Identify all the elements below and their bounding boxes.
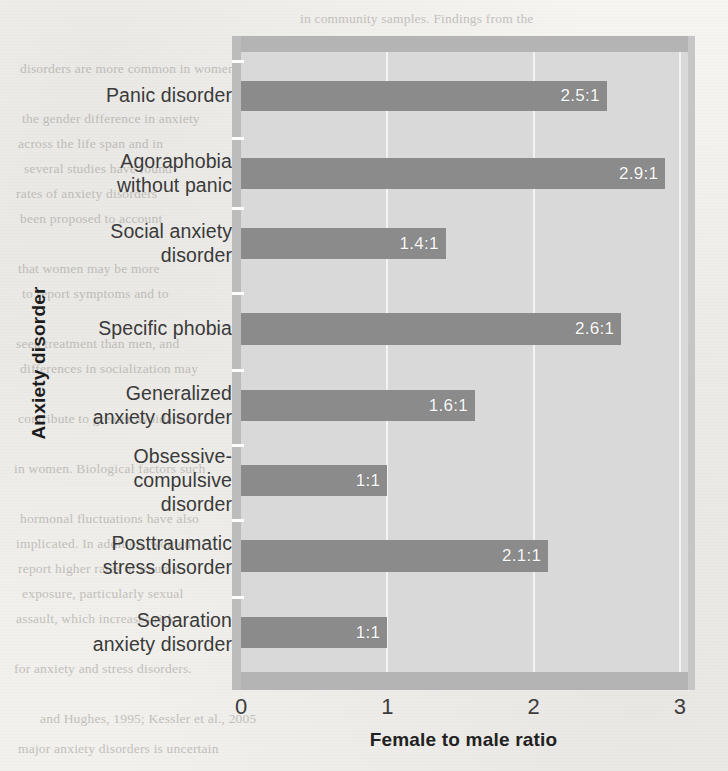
gridline-1 bbox=[386, 52, 388, 672]
x-tick-label: 3 bbox=[674, 694, 686, 720]
y-tick bbox=[232, 444, 244, 447]
category-label-line: Generalized bbox=[93, 381, 232, 405]
category-label: Specific phobia bbox=[98, 316, 232, 340]
category-label-line: anxiety disorder bbox=[93, 632, 232, 656]
category-label-line: Obsessive- bbox=[133, 444, 232, 468]
plot-frame: 2.5:12.9:11.4:12.6:11.6:11:12.1:11:1 bbox=[232, 36, 695, 690]
bar-value-label: 2.6:1 bbox=[575, 319, 614, 339]
category-label-line: Social anxiety bbox=[110, 219, 232, 243]
bar-value-label: 1:1 bbox=[356, 471, 381, 491]
bar-slot: 2.5:1 bbox=[241, 81, 688, 111]
y-tick bbox=[232, 292, 244, 295]
bar[interactable]: 1.6:1 bbox=[241, 390, 475, 421]
y-tick bbox=[232, 596, 244, 599]
category-label: Agoraphobiawithout panic bbox=[117, 149, 232, 197]
bar-chart-figure: Anxiety disorder Panic disorderAgoraphob… bbox=[0, 0, 728, 771]
plot-border-top bbox=[232, 36, 695, 52]
y-axis-title: Anxiety disorder bbox=[28, 248, 50, 478]
bar[interactable]: 2.5:1 bbox=[241, 81, 607, 111]
category-label: Posttraumaticstress disorder bbox=[103, 531, 232, 579]
bar-slot: 2.6:1 bbox=[241, 313, 688, 345]
bar-slot: 1.6:1 bbox=[241, 390, 688, 421]
category-label-line: anxiety disorder bbox=[93, 405, 232, 429]
gridline-3 bbox=[679, 52, 681, 672]
category-label: Social anxietydisorder bbox=[110, 219, 232, 267]
x-tick-label: 2 bbox=[527, 694, 539, 720]
category-label-line: Posttraumatic bbox=[103, 531, 232, 555]
plot-border-bottom bbox=[232, 672, 695, 690]
category-label-line: Separation bbox=[93, 608, 232, 632]
category-label: Separationanxiety disorder bbox=[93, 608, 232, 656]
bar-value-label: 2.5:1 bbox=[560, 86, 599, 106]
y-tick bbox=[232, 60, 244, 63]
category-label-line: stress disorder bbox=[103, 555, 232, 579]
category-label-line: Agoraphobia bbox=[117, 149, 232, 173]
y-tick bbox=[232, 369, 244, 372]
plot-area: 2.5:12.9:11.4:12.6:11.6:11:12.1:11:1 bbox=[241, 52, 688, 672]
bar-value-label: 1.4:1 bbox=[400, 234, 439, 254]
bar-value-label: 1.6:1 bbox=[429, 396, 468, 416]
x-tick-label: 1 bbox=[381, 694, 393, 720]
bar-slot: 2.9:1 bbox=[241, 158, 688, 189]
bar-slot: 2.1:1 bbox=[241, 540, 688, 572]
bar[interactable]: 1.4:1 bbox=[241, 228, 446, 259]
category-label: Panic disorder bbox=[106, 83, 232, 107]
category-label-line: without panic bbox=[117, 173, 232, 197]
bar-slot: 1.4:1 bbox=[241, 228, 688, 259]
bar-value-label: 2.1:1 bbox=[502, 546, 541, 566]
bar[interactable]: 2.6:1 bbox=[241, 313, 621, 345]
y-tick bbox=[232, 137, 244, 140]
bar[interactable]: 2.9:1 bbox=[241, 158, 665, 189]
bar[interactable]: 2.1:1 bbox=[241, 540, 548, 572]
category-label-line: compulsive bbox=[133, 468, 232, 492]
x-axis-title: Female to male ratio bbox=[232, 729, 695, 751]
category-label-line: disorder bbox=[110, 243, 232, 267]
plot-border-right bbox=[688, 36, 695, 690]
y-tick bbox=[232, 519, 244, 522]
category-label: Obsessive-compulsivedisorder bbox=[133, 444, 232, 516]
bar-value-label: 2.9:1 bbox=[619, 164, 658, 184]
bar[interactable]: 1:1 bbox=[241, 465, 387, 496]
bar-slot: 1:1 bbox=[241, 465, 688, 496]
x-tick-label: 0 bbox=[235, 694, 247, 720]
y-tick bbox=[232, 207, 244, 210]
category-label-line: Specific phobia bbox=[98, 316, 232, 340]
bar-slot: 1:1 bbox=[241, 617, 688, 648]
gridline-2 bbox=[533, 52, 535, 672]
category-label-line: disorder bbox=[133, 492, 232, 516]
category-label: Generalizedanxiety disorder bbox=[93, 381, 232, 429]
bar-value-label: 1:1 bbox=[356, 623, 381, 643]
bar[interactable]: 1:1 bbox=[241, 617, 387, 648]
category-label-line: Panic disorder bbox=[106, 83, 232, 107]
plot-border-left bbox=[232, 36, 241, 690]
